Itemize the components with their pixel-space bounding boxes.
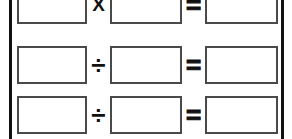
operand2-input[interactable]	[110, 96, 182, 134]
math-worksheet: X = ÷ = ÷ =	[0, 0, 292, 139]
equation-row: X =	[0, 0, 292, 28]
division-operator-icon: ÷	[87, 96, 110, 134]
result-input[interactable]	[205, 96, 278, 134]
operand1-input[interactable]	[17, 46, 87, 84]
equals-sign-icon: =	[182, 0, 205, 24]
operand1-input[interactable]	[17, 96, 87, 134]
result-input[interactable]	[205, 46, 278, 84]
operand2-input[interactable]	[110, 46, 182, 84]
multiplication-operator-icon: X	[87, 0, 110, 24]
operand2-input[interactable]	[110, 0, 182, 24]
equals-sign-icon: =	[182, 96, 205, 134]
equation-row: ÷ =	[0, 42, 292, 88]
equals-sign-icon: =	[182, 46, 205, 84]
result-input[interactable]	[205, 0, 278, 24]
division-operator-icon: ÷	[87, 46, 110, 84]
equation-row: ÷ =	[0, 92, 292, 138]
operand1-input[interactable]	[17, 0, 87, 24]
